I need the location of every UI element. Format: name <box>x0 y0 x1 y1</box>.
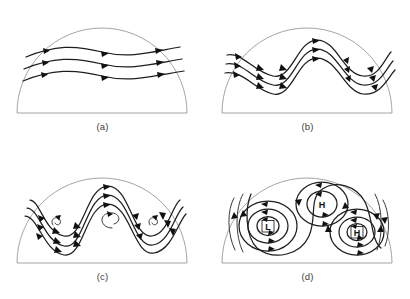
panel-a: (a) <box>0 0 205 149</box>
panel-caption-d: (d) <box>205 271 410 282</box>
index-cycle-figure: (a) <box>0 0 410 299</box>
panel-caption-a: (a) <box>0 121 205 132</box>
dome-outline-a <box>17 28 187 113</box>
panel-c: (c) <box>0 150 205 299</box>
eddy-label-H-upper: H <box>319 200 326 210</box>
panel-d: L H H <box>205 150 410 299</box>
panel-caption-c: (c) <box>0 271 205 282</box>
panel-b: (b) <box>205 0 410 149</box>
eddy-label-L: L <box>265 222 271 232</box>
panel-caption-b: (b) <box>205 121 410 132</box>
